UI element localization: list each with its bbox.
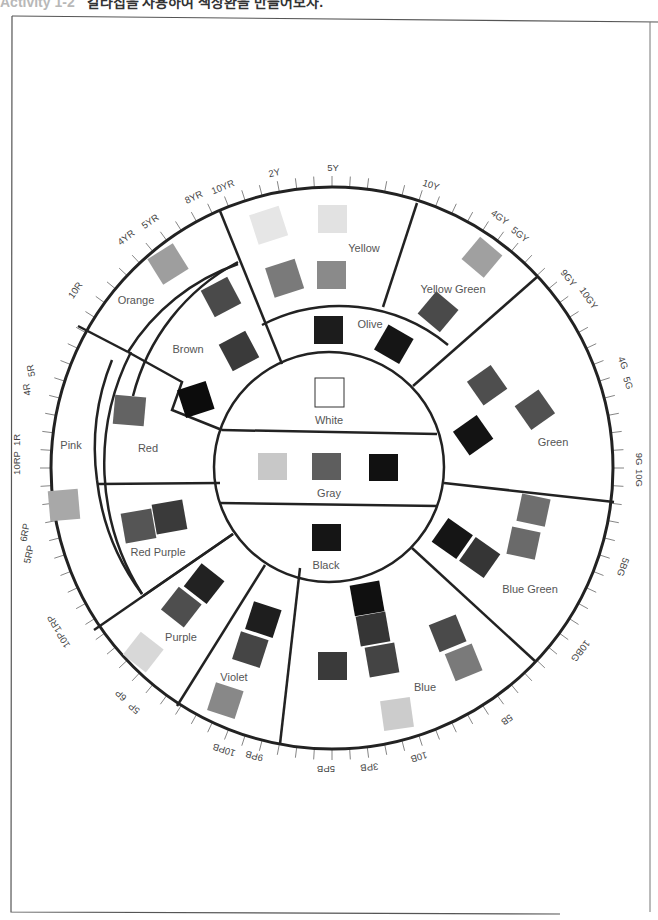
tick-label-1RP: 1RP bbox=[44, 613, 63, 635]
tick-label-10YR: 10YR bbox=[210, 177, 236, 196]
chip-yellow-1 bbox=[249, 206, 288, 245]
tick-label-10PB: 10PB bbox=[211, 742, 237, 760]
tick-label-1R: 1R bbox=[11, 434, 22, 446]
chip-blue-3 bbox=[365, 643, 400, 678]
chip-brown-2 bbox=[219, 331, 260, 372]
tick-label-4R: 4R bbox=[20, 383, 33, 397]
color-wheel-diagram: White Gray Black Yellow Olive Yellow Gre… bbox=[0, 0, 658, 920]
chip-blue-5 bbox=[429, 614, 467, 652]
tick-label-5R: 5R bbox=[24, 364, 37, 378]
tick-label-3PB: 3PB bbox=[360, 761, 379, 774]
label-brown: Brown bbox=[172, 343, 203, 355]
tick-label-10R: 10R bbox=[66, 280, 85, 301]
label-purple: Purple bbox=[165, 631, 197, 643]
tick-label-10GY: 10GY bbox=[577, 285, 600, 312]
chip-violet-3 bbox=[207, 682, 244, 719]
tick-label-9PB: 9PB bbox=[244, 749, 264, 764]
label-blue-green: Blue Green bbox=[502, 583, 558, 595]
label-orange: Orange bbox=[118, 294, 155, 306]
chip-olive-1 bbox=[314, 316, 343, 344]
tick-label-8YR: 8YR bbox=[183, 188, 205, 206]
label-violet: Violet bbox=[220, 671, 247, 683]
label-green: Green bbox=[538, 436, 569, 448]
tick-label-10RP: 10RP bbox=[11, 451, 22, 475]
label-blue: Blue bbox=[414, 681, 436, 693]
chip-yellow-green-1 bbox=[462, 237, 503, 278]
chip-yellow-4 bbox=[317, 261, 346, 289]
tick-label-10B: 10B bbox=[409, 750, 428, 765]
chip-yellow-3 bbox=[265, 259, 304, 298]
chip-blue-4 bbox=[318, 652, 347, 680]
label-red-purple: Red Purple bbox=[130, 546, 185, 558]
tick-label-5YR: 5YR bbox=[139, 211, 161, 231]
chip-blue-green-1 bbox=[516, 493, 550, 526]
chip-yellow-2 bbox=[318, 205, 347, 233]
tick-label-5GY: 5GY bbox=[509, 224, 531, 245]
tick-label-10G: 10G bbox=[634, 469, 645, 487]
chip-gray-dark bbox=[369, 454, 398, 481]
tick-label-4GY: 4GY bbox=[489, 207, 511, 227]
tick-label-10BG: 10BG bbox=[569, 638, 593, 664]
chip-brown-3 bbox=[177, 381, 214, 418]
chip-blue-7 bbox=[380, 697, 414, 731]
label-gray: Gray bbox=[317, 487, 341, 499]
chip-blue-6 bbox=[445, 643, 483, 681]
chip-red-purple-1 bbox=[121, 508, 157, 543]
chip-gray-light bbox=[258, 453, 287, 480]
tick-label-5B: 5B bbox=[499, 712, 515, 728]
label-yellow: Yellow bbox=[348, 242, 379, 254]
chip-gray-mid bbox=[312, 453, 341, 480]
chip-pink-1 bbox=[48, 489, 81, 522]
chip-red-purple-2 bbox=[152, 499, 188, 534]
label-olive: Olive bbox=[357, 318, 382, 330]
chip-green-1 bbox=[467, 365, 507, 405]
tick-label-5P: 5P bbox=[126, 701, 142, 717]
chip-olive-2 bbox=[374, 325, 414, 365]
tick-label-5BG: 5BG bbox=[615, 556, 632, 578]
label-red: Red bbox=[138, 442, 158, 454]
label-black: Black bbox=[313, 559, 340, 571]
chip-green-2 bbox=[515, 390, 555, 430]
tick-label-9GY: 9GY bbox=[558, 267, 579, 289]
chip-purple-3 bbox=[123, 632, 164, 673]
chip-green-3 bbox=[453, 415, 493, 455]
tick-label-5RP: 5RP bbox=[21, 544, 36, 564]
tick-label-10Y: 10Y bbox=[421, 177, 441, 193]
chip-yellow-green-2 bbox=[418, 291, 459, 332]
chip-white bbox=[315, 378, 344, 407]
chip-blue-green-2 bbox=[506, 526, 540, 559]
chip-violet-2 bbox=[232, 631, 269, 668]
tick-label-2Y: 2Y bbox=[267, 166, 281, 179]
tick-label-5PB: 5PB bbox=[317, 764, 335, 775]
chip-violet-1 bbox=[245, 601, 282, 638]
chip-blue-2 bbox=[356, 612, 391, 647]
chip-black bbox=[312, 524, 341, 551]
label-white: White bbox=[315, 414, 343, 426]
tick-label-5Y: 5Y bbox=[327, 162, 339, 173]
label-yellow-green: Yellow Green bbox=[420, 283, 485, 295]
tick-label-4G: 4G bbox=[616, 355, 631, 371]
chip-blue-1 bbox=[350, 581, 385, 617]
tick-label-9G: 9G bbox=[634, 453, 645, 466]
tick-label-6P: 6P bbox=[113, 688, 129, 704]
tick-label-5G: 5G bbox=[621, 375, 635, 390]
tick-label-6RP: 6RP bbox=[18, 522, 32, 542]
chip-red-1 bbox=[113, 395, 146, 427]
label-pink: Pink bbox=[60, 439, 82, 451]
tick-label-4YR: 4YR bbox=[115, 227, 136, 247]
